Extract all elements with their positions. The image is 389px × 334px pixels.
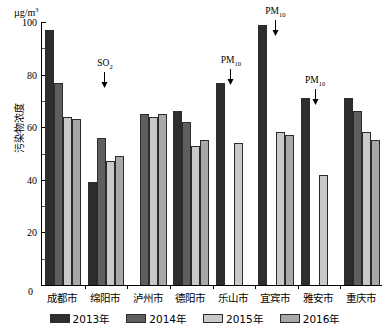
x-axis-label: 德阳市 [169, 290, 212, 305]
bar[interactable] [158, 114, 167, 285]
bar-group [170, 22, 213, 285]
bar[interactable] [353, 111, 362, 285]
legend-label: 2016年 [303, 311, 340, 326]
y-axis-zero-label: 0 [28, 286, 33, 297]
x-axis-tick-mark [255, 285, 256, 289]
bar-group [255, 22, 298, 285]
bar[interactable] [276, 132, 285, 285]
bar[interactable] [106, 161, 115, 285]
x-axis-label: 宜宾市 [254, 290, 297, 305]
legend-swatch [280, 314, 300, 323]
bar[interactable] [182, 122, 191, 285]
bar-group-bars [170, 22, 213, 285]
bar[interactable] [97, 138, 106, 285]
bar[interactable] [149, 117, 158, 285]
x-axis-tick-mark [127, 285, 128, 289]
bar[interactable] [362, 132, 371, 285]
x-axis-tick-mark [85, 285, 86, 289]
y-axis-tick-label: 40 [9, 174, 37, 185]
x-axis-tick-mark [170, 285, 171, 289]
bar[interactable] [344, 98, 353, 285]
bar-group [298, 22, 341, 285]
x-axis-tick-mark [213, 285, 214, 289]
bar[interactable] [200, 140, 209, 285]
bar[interactable] [371, 140, 380, 285]
x-axis-label: 乐山市 [212, 290, 255, 305]
bar[interactable] [285, 135, 294, 285]
legend-swatch [50, 314, 70, 323]
bar[interactable] [216, 83, 225, 286]
bar[interactable] [191, 146, 200, 285]
bar-group-bars [127, 22, 170, 285]
bar-group [42, 22, 85, 285]
legend-swatch [203, 314, 223, 323]
x-axis-label: 成都市 [41, 290, 84, 305]
bar-group-bars [298, 22, 341, 285]
legend-label: 2014年 [149, 311, 186, 326]
x-axis-tick-mark [298, 285, 299, 289]
y-axis-tick-label: 20 [9, 227, 37, 238]
chart-annotation-label: PM10 [293, 75, 337, 87]
bar[interactable] [258, 25, 267, 285]
legend-label: 2013年 [73, 311, 110, 326]
annotation-arrow-icon [100, 72, 109, 88]
annotation-arrow-icon [311, 89, 320, 105]
bar-group-bars [255, 22, 298, 285]
chart-annotation-label: SO2 [83, 58, 127, 70]
legend-item[interactable]: 2014年 [126, 311, 186, 326]
bar-group-bars [42, 22, 85, 285]
x-axis-label: 绵阳市 [84, 290, 127, 305]
chart-figure: µg/m3 污染物浓度 0 20406080100 成都市绵阳市泸州市德阳市乐山… [0, 0, 389, 334]
chart-annotation-label: PM10 [253, 6, 297, 18]
bar[interactable] [319, 175, 328, 285]
legend-label: 2015年 [226, 311, 263, 326]
y-axis-tick-label: 60 [9, 122, 37, 133]
bar-group [340, 22, 383, 285]
legend-item[interactable]: 2016年 [280, 311, 340, 326]
x-axis-tick-mark [340, 285, 341, 289]
bar[interactable] [88, 182, 97, 285]
y-axis-tick-label: 80 [9, 69, 37, 80]
bar[interactable] [140, 114, 149, 285]
bar[interactable] [72, 119, 81, 285]
chart-annotation-label: PM10 [209, 55, 253, 67]
bar-group-bars [340, 22, 383, 285]
legend-item[interactable]: 2015年 [203, 311, 263, 326]
x-axis-label: 重庆市 [339, 290, 382, 305]
bar[interactable] [63, 117, 72, 285]
legend-swatch [126, 314, 146, 323]
chart-legend: 2013年2014年2015年2016年 [0, 311, 389, 326]
x-axis-label: 泸州市 [126, 290, 169, 305]
bar[interactable] [54, 83, 63, 286]
legend-item[interactable]: 2013年 [50, 311, 110, 326]
bar[interactable] [45, 30, 54, 285]
annotation-arrow-icon [271, 20, 280, 36]
bar[interactable] [301, 98, 310, 285]
bar[interactable] [115, 156, 124, 285]
annotation-arrow-icon [226, 69, 235, 85]
y-axis-tick-label: 100 [9, 17, 37, 28]
bar-group [127, 22, 170, 285]
x-axis-label: 雅安市 [297, 290, 340, 305]
bar[interactable] [234, 143, 243, 285]
bar[interactable] [173, 111, 182, 285]
